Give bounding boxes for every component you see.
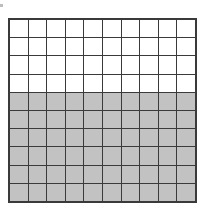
shaded-cell: [177, 147, 195, 164]
unshaded-cell: [140, 56, 158, 73]
shaded-cell: [29, 129, 47, 146]
unshaded-cell: [159, 38, 177, 55]
unshaded-cell: [140, 75, 158, 92]
shaded-cell: [177, 184, 195, 201]
shaded-cell: [159, 93, 177, 110]
unshaded-cell: [103, 20, 121, 37]
shaded-cell: [103, 93, 121, 110]
unshaded-cell: [103, 75, 121, 92]
shaded-cell: [140, 184, 158, 201]
unshaded-cell: [66, 75, 84, 92]
unshaded-cell: [159, 75, 177, 92]
shaded-cell: [103, 147, 121, 164]
shaded-cell: [10, 111, 28, 128]
shaded-cell: [29, 166, 47, 183]
shaded-cell: [66, 184, 84, 201]
unshaded-cell: [29, 20, 47, 37]
unshaded-cell: [159, 20, 177, 37]
shaded-cell: [122, 93, 140, 110]
shaded-cell: [29, 93, 47, 110]
shaded-cell: [103, 166, 121, 183]
shaded-cell: [66, 129, 84, 146]
unshaded-cell: [66, 38, 84, 55]
shaded-cell: [140, 147, 158, 164]
shaded-cell: [140, 93, 158, 110]
unshaded-cell: [177, 20, 195, 37]
shaded-cell: [177, 93, 195, 110]
unshaded-cell: [47, 20, 65, 37]
shaded-cell: [103, 129, 121, 146]
unshaded-cell: [84, 56, 102, 73]
shaded-cell: [103, 111, 121, 128]
shaded-cell: [122, 147, 140, 164]
corner-mark: [0, 4, 3, 7]
unshaded-cell: [103, 56, 121, 73]
shaded-cell: [159, 184, 177, 201]
unshaded-cell: [29, 38, 47, 55]
shaded-cell: [159, 166, 177, 183]
shaded-cell: [84, 93, 102, 110]
unshaded-cell: [177, 75, 195, 92]
shaded-cell: [122, 129, 140, 146]
shaded-cell: [177, 166, 195, 183]
shaded-cell: [66, 111, 84, 128]
unshaded-cell: [103, 38, 121, 55]
unshaded-cell: [66, 20, 84, 37]
unshaded-cell: [84, 75, 102, 92]
unshaded-cell: [84, 38, 102, 55]
shaded-cell: [122, 166, 140, 183]
shaded-cell: [66, 93, 84, 110]
shaded-cell: [47, 93, 65, 110]
unshaded-cell: [122, 20, 140, 37]
shaded-cell: [66, 147, 84, 164]
unshaded-cell: [10, 38, 28, 55]
shaded-cell: [10, 166, 28, 183]
unshaded-cell: [122, 38, 140, 55]
shaded-cell: [47, 111, 65, 128]
unshaded-cell: [177, 56, 195, 73]
shaded-cell: [47, 129, 65, 146]
unshaded-cell: [122, 75, 140, 92]
shaded-cell: [140, 166, 158, 183]
shaded-cell: [29, 111, 47, 128]
unshaded-cell: [177, 38, 195, 55]
shaded-cell: [84, 111, 102, 128]
unshaded-cell: [10, 56, 28, 73]
shaded-cell: [159, 111, 177, 128]
shaded-cell: [66, 166, 84, 183]
shaded-cell: [84, 147, 102, 164]
shaded-cell: [159, 147, 177, 164]
unshaded-cell: [10, 20, 28, 37]
shaded-cell: [122, 111, 140, 128]
unshaded-cell: [47, 75, 65, 92]
shaded-cell: [47, 184, 65, 201]
shaded-cell: [47, 166, 65, 183]
shaded-cell: [122, 184, 140, 201]
shaded-cell: [177, 111, 195, 128]
shaded-cell: [84, 129, 102, 146]
shaded-cell: [47, 147, 65, 164]
unshaded-cell: [47, 56, 65, 73]
unshaded-cell: [159, 56, 177, 73]
unshaded-cell: [140, 38, 158, 55]
shaded-cell: [177, 129, 195, 146]
shaded-cell: [103, 184, 121, 201]
shaded-cell: [140, 111, 158, 128]
shaded-cell: [140, 129, 158, 146]
shaded-cell: [84, 166, 102, 183]
hundred-grid: [8, 18, 197, 203]
unshaded-cell: [84, 20, 102, 37]
shaded-cell: [159, 129, 177, 146]
unshaded-cell: [29, 56, 47, 73]
unshaded-cell: [122, 56, 140, 73]
shaded-cell: [10, 147, 28, 164]
shaded-cell: [29, 184, 47, 201]
shaded-cell: [84, 184, 102, 201]
unshaded-cell: [29, 75, 47, 92]
unshaded-cell: [47, 38, 65, 55]
shaded-cell: [10, 93, 28, 110]
unshaded-cell: [66, 56, 84, 73]
shaded-cell: [10, 184, 28, 201]
unshaded-cell: [140, 20, 158, 37]
shaded-cell: [29, 147, 47, 164]
